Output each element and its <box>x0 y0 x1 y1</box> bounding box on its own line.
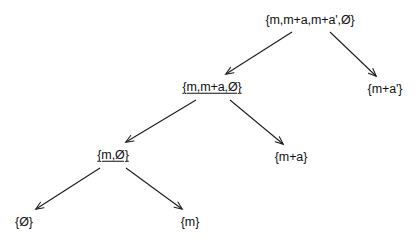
edge-left1-to-left2 <box>126 100 196 142</box>
node-leaf-m: {m} <box>181 216 199 229</box>
node-left2: {m,Ø} <box>97 149 128 162</box>
edge-root-to-left1 <box>226 32 292 74</box>
edge-layer <box>0 0 419 250</box>
edge-left1-to-right2 <box>230 100 283 144</box>
node-right1: {m+a'} <box>368 83 403 96</box>
set-inclusion-tree-diagram: {m,m+a,m+a',Ø}{m,m+a,Ø}{m+a'}{m,Ø}{m+a}{… <box>0 0 419 250</box>
edge-left2-to-zero <box>36 168 100 209</box>
node-right2: {m+a} <box>275 151 308 164</box>
edge-left2-to-m <box>126 168 182 209</box>
edges-group <box>36 32 376 209</box>
node-root: {m,m+a,m+a',Ø} <box>265 14 354 27</box>
node-leaf-zero: {Ø} <box>15 216 33 229</box>
edge-root-to-right1 <box>330 32 376 76</box>
node-left1: {m,m+a,Ø} <box>182 81 241 94</box>
